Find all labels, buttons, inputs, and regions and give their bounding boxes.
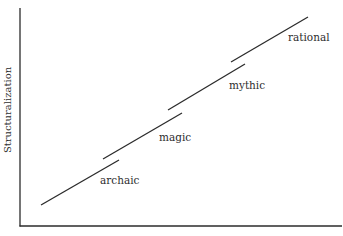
stage-labels: archaicmagicmythicrational — [100, 31, 330, 186]
structuralization-diagram: Structuralization archaicmagicmythicrati… — [0, 0, 343, 236]
y-axis-label: Structuralization — [2, 66, 13, 153]
stage-segments — [41, 17, 308, 205]
label-magic: magic — [159, 131, 191, 143]
label-archaic: archaic — [100, 174, 140, 186]
label-mythic: mythic — [229, 79, 265, 91]
label-rational: rational — [288, 31, 330, 43]
